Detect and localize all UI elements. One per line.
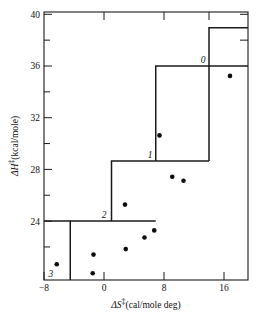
region-label-2: 2: [102, 210, 107, 220]
region-label-1: 1: [148, 150, 153, 160]
scatter-plot-svg: 40 36 32 28 24 −8 0 8 16: [0, 0, 263, 321]
data-point: [152, 228, 157, 233]
plot-frame: [44, 12, 248, 280]
y-tick-label-36: 36: [31, 61, 41, 71]
svg-text:ΔH‡(kcal/mole): ΔH‡(kcal/mole): [7, 116, 21, 177]
data-point: [157, 133, 162, 138]
y-axis-title-units: (kcal/mole): [10, 116, 21, 160]
y-axis-minor-ticks: [44, 40, 50, 247]
data-point: [142, 235, 147, 240]
y-tick-label-32: 32: [31, 113, 41, 123]
step-segment-region-1: [156, 66, 209, 161]
y-tick-label-24: 24: [31, 217, 41, 227]
x-tick-label-0: 0: [102, 283, 107, 293]
data-point: [91, 252, 96, 257]
region-label-0: 0: [201, 55, 206, 65]
plot-border: [44, 12, 248, 280]
data-point: [123, 247, 128, 252]
x-axis-title-symbol: ΔS: [110, 300, 122, 310]
chart-figure: 40 36 32 28 24 −8 0 8 16: [0, 0, 263, 321]
data-point: [170, 175, 175, 180]
step-segment-region-2: [112, 161, 156, 221]
x-tick-labels: −8 0 8 16: [39, 283, 229, 293]
x-tick-label-8: 8: [162, 283, 167, 293]
region-labels: 3 2 1 0: [48, 55, 206, 279]
data-point: [90, 271, 95, 276]
region-label-3: 3: [48, 269, 54, 279]
y-tick-labels: 40 36 32 28 24: [31, 10, 41, 227]
data-points: [54, 74, 232, 276]
data-point: [228, 74, 233, 79]
step-segment-region-0: [209, 28, 248, 161]
data-point: [123, 202, 128, 207]
x-tick-label-16: 16: [219, 283, 229, 293]
x-axis-top-ticks: [104, 12, 209, 20]
x-tick-label-minus8: −8: [39, 283, 49, 293]
y-tick-label-40: 40: [31, 10, 41, 20]
y-axis-title: ΔH‡(kcal/mole): [7, 116, 21, 177]
y-axis-title-symbol: ΔH: [10, 163, 20, 178]
x-axis-title-units: (cal/mole deg): [126, 300, 181, 311]
step-boundary: [44, 28, 248, 280]
svg-text:ΔS‡(cal/mole deg): ΔS‡(cal/mole deg): [110, 297, 180, 311]
x-axis-title: ΔS‡(cal/mole deg): [110, 297, 180, 311]
y-axis-major-ticks: [44, 14, 52, 221]
data-point: [54, 262, 59, 267]
data-point: [181, 178, 186, 183]
y-tick-label-28: 28: [31, 165, 41, 175]
